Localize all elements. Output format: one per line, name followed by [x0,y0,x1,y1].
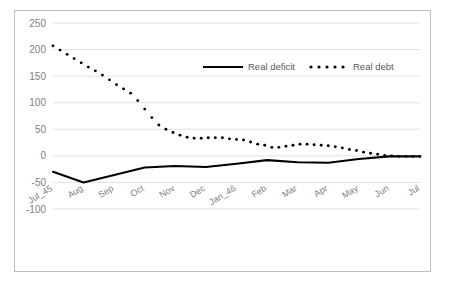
x-axis-tick-label: Apr [312,183,329,199]
data-point [59,49,62,52]
x-axis-tick-label: Sep [96,183,115,200]
data-point [256,143,259,146]
data-point [80,61,83,64]
data-point [355,149,358,152]
data-point [341,146,344,149]
data-point [221,136,224,139]
chart-canvas: 250200150100500-50-100 Jul_45AugSepOctNo… [15,11,430,271]
data-point [73,57,76,60]
data-point [87,66,90,69]
x-axis-tick-label: Aug [66,183,85,200]
data-point [277,146,280,149]
data-point [143,108,146,111]
data-point [186,136,189,139]
legend-dot [317,65,320,68]
data-point [115,83,118,86]
data-point [242,138,245,141]
y-axis-tick-label: 200 [29,44,46,55]
data-point [299,143,302,146]
data-point [94,69,97,72]
data-point [320,144,323,147]
data-point [136,99,139,102]
x-axis-tick-label: Mar [280,183,298,200]
y-axis-tick-label: 50 [35,124,47,135]
legend-dot [341,65,344,68]
data-point [306,143,309,146]
legend-marker-real-debt [309,65,344,68]
y-axis-tick-label: 150 [29,71,46,82]
y-axis-tick-labels: 250200150100500-50-100 [26,18,46,215]
data-point [313,143,316,146]
data-point [164,128,167,131]
data-point [263,144,266,147]
data-point [362,151,365,154]
data-point [228,137,231,140]
data-point [376,153,379,156]
y-axis-tick-label: 100 [29,97,46,108]
legend-dot [309,65,312,68]
data-point [284,145,287,148]
x-axis-tick-label: May [340,183,360,201]
chart-container: 250200150100500-50-100 Jul_45AugSepOctNo… [0,0,449,287]
x-axis-tick-labels: Jul_45AugSepOctNovDecJan_46FebMarAprMayJ… [26,183,421,207]
data-point [66,53,69,56]
data-point [200,137,203,140]
data-point [193,137,196,140]
y-axis-tick-label: -100 [26,204,46,215]
data-point [334,145,337,148]
data-point [157,124,160,127]
data-point [101,74,104,77]
x-axis-tick-label: Oct [129,183,147,199]
data-point [179,134,182,137]
data-point [348,148,351,151]
data-point [327,144,330,147]
data-point [129,92,132,95]
data-point [270,146,273,149]
data-point [214,136,217,139]
data-point [172,131,175,134]
data-point [207,136,210,139]
series-real-deficit [53,156,420,182]
x-axis-tick-label: Jan_46 [207,183,237,207]
chart-plot-frame: 250200150100500-50-100 Jul_45AugSepOctNo… [14,10,431,272]
legend-dot [333,65,336,68]
data-point [150,116,153,119]
legend-label-real-debt: Real debt [353,61,394,72]
x-axis-tick-label: Jul [406,183,421,198]
gridlines-group [53,23,420,209]
chart-legend: Real deficitReal debt [203,61,394,72]
y-axis-tick-label: 0 [40,150,46,161]
x-axis-tick-label: Dec [188,183,207,200]
legend-dot [325,65,328,68]
data-point [369,152,372,155]
x-axis-tick-label: Nov [158,183,177,200]
x-axis-tick-label: Jun [373,183,391,199]
data-point [122,87,125,90]
data-point [108,78,111,81]
y-axis-tick-label: 250 [29,18,46,29]
legend-label-real-deficit: Real deficit [248,61,295,72]
data-point [235,138,238,141]
x-axis-tick-label: Feb [250,183,268,200]
data-point [292,144,295,147]
data-point [52,44,55,47]
data-point [249,141,252,144]
